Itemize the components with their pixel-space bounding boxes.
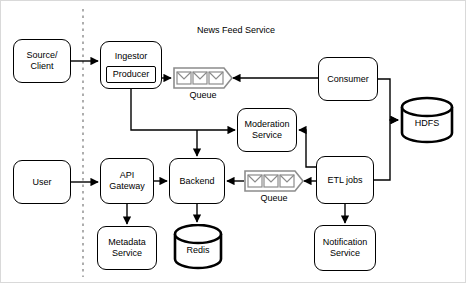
- connector-layer: [1, 1, 466, 283]
- node-user-label: User: [32, 177, 51, 188]
- node-backend-label: Backend: [179, 176, 214, 187]
- node-metadata-service[interactable]: Metadata Service: [97, 226, 157, 270]
- queue-bottom[interactable]: Queue: [244, 170, 304, 204]
- node-moderation-service[interactable]: Moderation Service: [237, 108, 297, 152]
- diagram-title: News Feed Service: [197, 25, 275, 35]
- node-redis[interactable]: Redis: [173, 224, 223, 270]
- node-ingestor[interactable]: Ingestor Producer: [100, 41, 162, 89]
- node-metadata-service-label: Metadata Service: [108, 237, 146, 259]
- edge-etl-to-moderation: [299, 130, 316, 167]
- node-ingestor-label: Ingestor: [115, 51, 148, 62]
- queue-top[interactable]: Queue: [173, 67, 233, 101]
- node-hdfs[interactable]: HDFS: [400, 96, 454, 144]
- queue-bottom-caption: Queue: [244, 193, 304, 203]
- node-producer-label: Producer: [113, 69, 150, 80]
- node-user[interactable]: User: [13, 160, 71, 204]
- queue-top-caption: Queue: [173, 90, 233, 100]
- node-backend[interactable]: Backend: [169, 158, 225, 204]
- node-redis-label: Redis: [186, 245, 209, 255]
- node-notification-service-label: Notification Service: [323, 237, 368, 259]
- queue-bottom-shape: [244, 170, 304, 192]
- node-api-gateway[interactable]: API Gateway: [100, 158, 154, 204]
- node-consumer-label: Consumer: [327, 74, 369, 85]
- architecture-diagram: News Feed Service Source/ Client Ingesto…: [0, 0, 466, 283]
- node-etl-jobs[interactable]: ETL jobs: [316, 156, 374, 204]
- node-hdfs-label: HDFS: [415, 118, 440, 128]
- node-notification-service[interactable]: Notification Service: [314, 225, 376, 271]
- node-consumer[interactable]: Consumer: [318, 57, 378, 101]
- edge-etl-to-hdfs: [374, 120, 398, 180]
- node-source-client-label: Source/ Client: [26, 50, 57, 72]
- node-api-gateway-label: API Gateway: [109, 170, 145, 192]
- edge-consumer-to-hdfs: [378, 79, 398, 120]
- queue-top-shape: [173, 67, 233, 89]
- node-etl-jobs-label: ETL jobs: [327, 175, 362, 186]
- node-source-client[interactable]: Source/ Client: [13, 39, 71, 83]
- node-producer[interactable]: Producer: [106, 66, 156, 83]
- node-moderation-service-label: Moderation Service: [244, 119, 289, 141]
